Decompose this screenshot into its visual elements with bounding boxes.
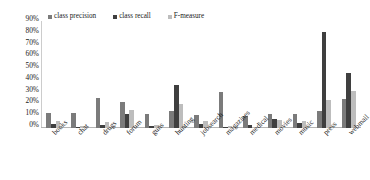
y-axis-tick-label: 10% — [25, 109, 39, 116]
x-axis-label-slot: magazines — [213, 129, 238, 179]
bar-group — [115, 21, 140, 128]
bar-group — [66, 21, 91, 128]
y-axis-tick-label: 30% — [25, 86, 39, 93]
x-axis-label-slot: drugs — [90, 129, 115, 179]
legend-swatch-icon — [113, 15, 117, 19]
x-axis-label-slot: jobsearch — [189, 129, 214, 179]
y-axis-tick-label: 90% — [25, 15, 39, 22]
bars-layer — [41, 21, 361, 128]
y-axis-tick-label: 0% — [29, 121, 39, 128]
bar-group — [164, 21, 189, 128]
x-axis-label-slot: press — [312, 129, 337, 179]
x-axis-label-slot: books — [41, 129, 66, 179]
x-axis-label-slot: movies — [262, 129, 287, 179]
y-axis: 90%80%70%60%50%40%30%20%10%0% — [17, 15, 39, 133]
x-axis-label-slot: guns — [139, 129, 164, 179]
y-axis-tick-label: 50% — [25, 62, 39, 69]
y-axis-tick-label: 20% — [25, 97, 39, 104]
bar — [219, 92, 224, 128]
legend-item: F-measure — [168, 13, 204, 20]
legend-item-label: class precision — [54, 13, 96, 20]
legend-item-label: F-measure — [174, 13, 204, 20]
x-axis-labels: bookschatdrugsforumgunshuntingjobsearchm… — [41, 129, 361, 179]
legend-item: class precision — [48, 13, 96, 20]
bar-group — [189, 21, 214, 128]
y-axis-tick-label: 60% — [25, 50, 39, 57]
legend-swatch-icon — [168, 15, 172, 19]
x-axis-label-slot: chat — [66, 129, 91, 179]
bar-group — [139, 21, 164, 128]
x-axis-label-slot: forum — [115, 129, 140, 179]
bar — [96, 98, 101, 128]
y-axis-tick-label: 40% — [25, 74, 39, 81]
bar-group — [336, 21, 361, 128]
x-axis-label-slot: music — [287, 129, 312, 179]
legend-item: class recall — [113, 13, 151, 20]
legend-item-label: class recall — [119, 13, 151, 20]
y-axis-tick-label: 80% — [25, 27, 39, 34]
bar-group — [262, 21, 287, 128]
bar-group — [41, 21, 66, 128]
x-axis-label-slot: webmail — [336, 129, 361, 179]
legend-swatch-icon — [48, 15, 52, 19]
chart-legend: class precisionclass recallF-measure — [48, 13, 204, 20]
x-axis-label-slot: medical — [238, 129, 263, 179]
x-axis-label-slot: hunting — [164, 129, 189, 179]
y-axis-tick-label: 70% — [25, 39, 39, 46]
bar — [71, 113, 76, 128]
bar-group — [312, 21, 337, 128]
bar-group — [90, 21, 115, 128]
bar-group — [287, 21, 312, 128]
